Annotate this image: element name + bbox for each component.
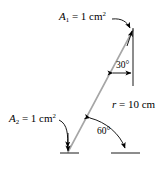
area1-value: = 1 cm — [69, 10, 102, 22]
area2-value: = 1 cm — [19, 112, 52, 124]
figure-canvas — [0, 0, 164, 170]
angle-bottom-label: 60° — [97, 127, 110, 137]
radiation-geometry-figure: A1 = 1 cm2 A2 = 1 cm2 r = 10 cm 30° 60° — [0, 0, 164, 170]
area2-label: A2 = 1 cm2 — [9, 113, 56, 125]
area1-label: A1 = 1 cm2 — [59, 11, 106, 23]
area1-exponent: 2 — [103, 10, 106, 17]
area2-symbol: A — [9, 112, 16, 124]
area1-leader-arrow — [112, 19, 130, 28]
area1-symbol: A — [59, 10, 66, 22]
area2-leader-arrow — [59, 120, 68, 147]
distance-label: r = 10 cm — [112, 99, 155, 110]
distance-value: = 10 cm — [116, 98, 155, 110]
area2-exponent: 2 — [53, 112, 56, 119]
angle-top-label: 30° — [116, 61, 129, 71]
